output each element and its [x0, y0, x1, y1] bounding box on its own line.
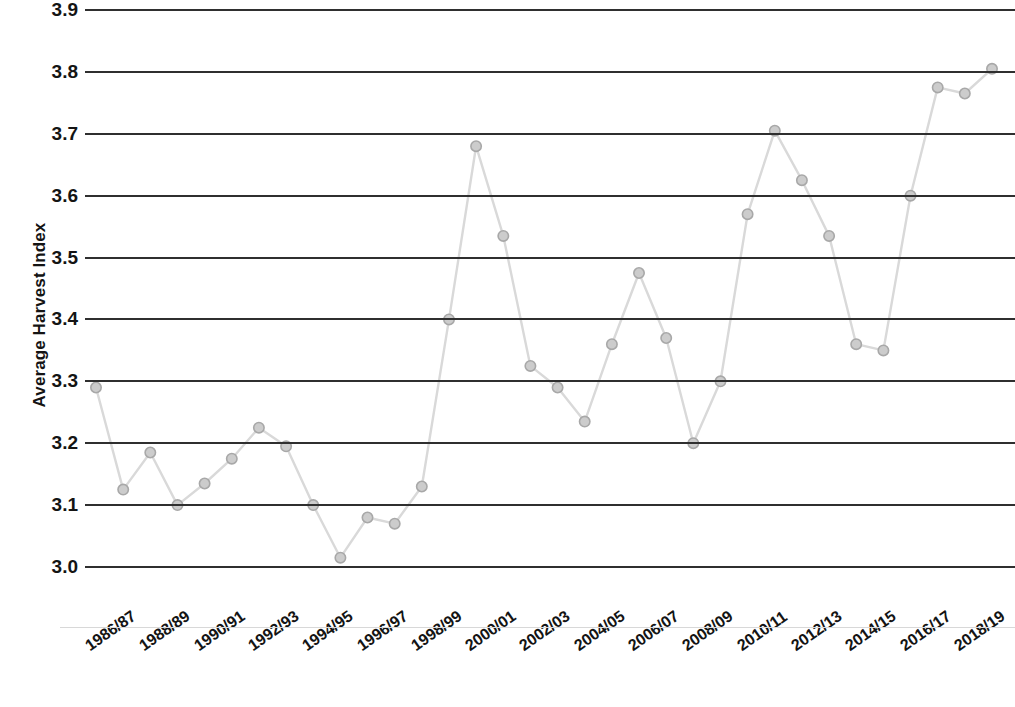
data-point	[552, 382, 562, 392]
data-series-line	[96, 69, 992, 558]
data-point	[960, 88, 970, 98]
harvest-index-line-chart: Average Harvest Index 3.03.13.23.33.43.5…	[0, 0, 1015, 707]
gridline	[85, 442, 1015, 444]
gridline	[85, 71, 1015, 73]
gridline	[85, 133, 1015, 135]
gridline	[85, 380, 1015, 382]
x-axis-line	[60, 627, 1015, 628]
data-point	[797, 175, 807, 185]
plot-area	[0, 0, 1015, 707]
data-point	[634, 268, 644, 278]
gridline	[85, 318, 1015, 320]
data-point	[824, 231, 834, 241]
gridline	[85, 9, 1015, 11]
data-point	[199, 478, 209, 488]
data-point	[661, 333, 671, 343]
data-point	[254, 423, 264, 433]
gridline	[85, 566, 1015, 568]
data-point	[227, 454, 237, 464]
data-point	[335, 553, 345, 563]
data-point	[580, 416, 590, 426]
data-point	[607, 339, 617, 349]
data-point	[417, 481, 427, 491]
data-point	[362, 512, 372, 522]
data-point	[525, 361, 535, 371]
data-point	[471, 141, 481, 151]
gridline	[85, 195, 1015, 197]
data-point	[742, 209, 752, 219]
data-point	[390, 519, 400, 529]
data-point-markers	[91, 64, 997, 563]
data-point	[145, 447, 155, 457]
data-point	[878, 345, 888, 355]
data-point	[933, 82, 943, 92]
data-point	[851, 339, 861, 349]
gridline	[85, 257, 1015, 259]
data-point	[498, 231, 508, 241]
data-point	[118, 484, 128, 494]
data-point	[91, 382, 101, 392]
gridline	[85, 504, 1015, 506]
